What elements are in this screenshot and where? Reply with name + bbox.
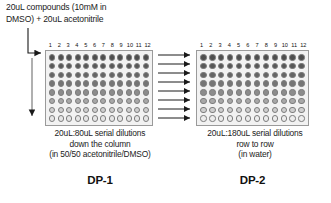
well-B5[interactable]	[236, 63, 242, 69]
well-H11[interactable]	[134, 115, 140, 121]
well-E7[interactable]	[254, 89, 260, 95]
well-B10[interactable]	[281, 63, 287, 69]
well-E8[interactable]	[263, 89, 269, 95]
well-A11[interactable]	[134, 54, 140, 60]
well-E11[interactable]	[134, 89, 140, 95]
well-B8[interactable]	[109, 63, 115, 69]
well-A9[interactable]	[117, 54, 123, 60]
well-F5[interactable]	[236, 98, 242, 104]
well-H4[interactable]	[75, 115, 81, 121]
well-B1[interactable]	[49, 63, 55, 69]
well-A9[interactable]	[272, 54, 278, 60]
well-E2[interactable]	[58, 89, 64, 95]
well-B6[interactable]	[92, 63, 98, 69]
well-C6[interactable]	[92, 72, 98, 78]
well-G8[interactable]	[109, 107, 115, 113]
well-D11[interactable]	[289, 80, 295, 86]
well-B12[interactable]	[143, 63, 149, 69]
well-E12[interactable]	[143, 89, 149, 95]
well-E5[interactable]	[236, 89, 242, 95]
well-E1[interactable]	[200, 89, 206, 95]
well-H2[interactable]	[209, 115, 215, 121]
well-G4[interactable]	[227, 107, 233, 113]
well-G12[interactable]	[143, 107, 149, 113]
well-D10[interactable]	[126, 80, 132, 86]
well-E4[interactable]	[75, 89, 81, 95]
well-C4[interactable]	[75, 72, 81, 78]
well-H6[interactable]	[92, 115, 98, 121]
well-G3[interactable]	[66, 107, 72, 113]
well-C7[interactable]	[100, 72, 106, 78]
well-A2[interactable]	[209, 54, 215, 60]
well-H2[interactable]	[58, 115, 64, 121]
well-C5[interactable]	[83, 72, 89, 78]
well-A8[interactable]	[109, 54, 115, 60]
well-H8[interactable]	[263, 115, 269, 121]
well-B11[interactable]	[134, 63, 140, 69]
well-H12[interactable]	[143, 115, 149, 121]
well-F10[interactable]	[126, 98, 132, 104]
well-D9[interactable]	[117, 80, 123, 86]
well-F12[interactable]	[298, 98, 304, 104]
well-G11[interactable]	[289, 107, 295, 113]
well-G6[interactable]	[92, 107, 98, 113]
well-D2[interactable]	[209, 80, 215, 86]
well-G1[interactable]	[200, 107, 206, 113]
well-H8[interactable]	[109, 115, 115, 121]
well-E10[interactable]	[281, 89, 287, 95]
well-A12[interactable]	[143, 54, 149, 60]
well-E6[interactable]	[245, 89, 251, 95]
well-A4[interactable]	[227, 54, 233, 60]
well-C12[interactable]	[143, 72, 149, 78]
well-H11[interactable]	[289, 115, 295, 121]
well-B8[interactable]	[263, 63, 269, 69]
well-B11[interactable]	[289, 63, 295, 69]
well-A2[interactable]	[58, 54, 64, 60]
well-F7[interactable]	[254, 98, 260, 104]
well-E12[interactable]	[298, 89, 304, 95]
well-A6[interactable]	[92, 54, 98, 60]
well-E6[interactable]	[92, 89, 98, 95]
well-C2[interactable]	[58, 72, 64, 78]
well-A1[interactable]	[49, 54, 55, 60]
well-C5[interactable]	[236, 72, 242, 78]
well-B1[interactable]	[200, 63, 206, 69]
well-G6[interactable]	[245, 107, 251, 113]
well-C3[interactable]	[218, 72, 224, 78]
well-B9[interactable]	[272, 63, 278, 69]
well-A11[interactable]	[289, 54, 295, 60]
well-F6[interactable]	[245, 98, 251, 104]
well-D8[interactable]	[263, 80, 269, 86]
well-B6[interactable]	[245, 63, 251, 69]
well-A3[interactable]	[218, 54, 224, 60]
microplate-dp2[interactable]	[196, 50, 309, 126]
well-C6[interactable]	[245, 72, 251, 78]
well-D1[interactable]	[200, 80, 206, 86]
well-H6[interactable]	[245, 115, 251, 121]
well-E4[interactable]	[227, 89, 233, 95]
well-C7[interactable]	[254, 72, 260, 78]
well-B7[interactable]	[100, 63, 106, 69]
well-H1[interactable]	[200, 115, 206, 121]
well-G5[interactable]	[83, 107, 89, 113]
well-B7[interactable]	[254, 63, 260, 69]
well-H10[interactable]	[281, 115, 287, 121]
well-G1[interactable]	[49, 107, 55, 113]
well-B9[interactable]	[117, 63, 123, 69]
well-F3[interactable]	[66, 98, 72, 104]
well-A8[interactable]	[263, 54, 269, 60]
well-F8[interactable]	[263, 98, 269, 104]
well-D7[interactable]	[100, 80, 106, 86]
well-F1[interactable]	[200, 98, 206, 104]
well-E3[interactable]	[218, 89, 224, 95]
well-E2[interactable]	[209, 89, 215, 95]
well-E9[interactable]	[117, 89, 123, 95]
well-E11[interactable]	[289, 89, 295, 95]
well-A1[interactable]	[200, 54, 206, 60]
well-D2[interactable]	[58, 80, 64, 86]
well-H4[interactable]	[227, 115, 233, 121]
well-B4[interactable]	[227, 63, 233, 69]
well-B3[interactable]	[66, 63, 72, 69]
well-H5[interactable]	[236, 115, 242, 121]
well-A10[interactable]	[281, 54, 287, 60]
